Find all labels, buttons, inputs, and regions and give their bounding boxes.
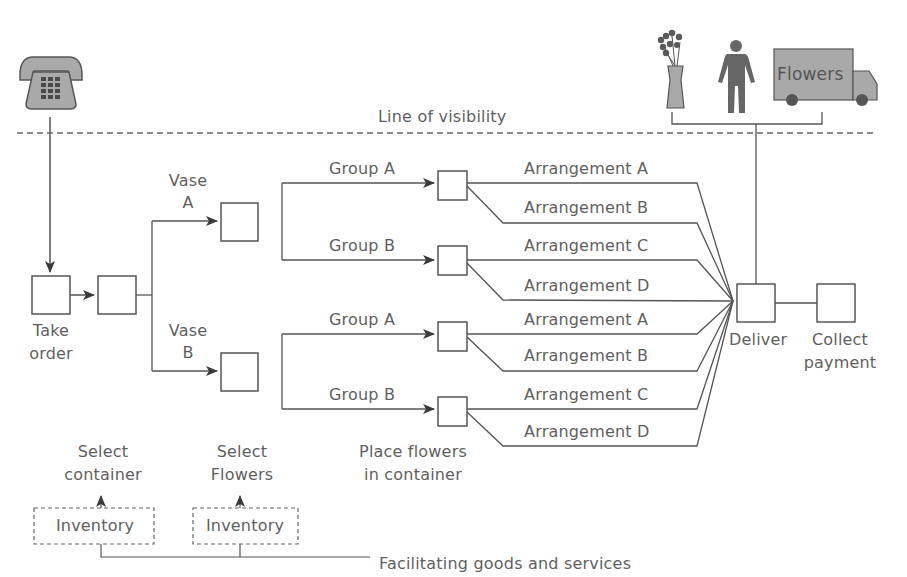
vase-b-label-1: Vase xyxy=(169,320,208,342)
lower-group-b-label: Group B xyxy=(329,384,395,406)
arrangement-label: Arrangement D xyxy=(524,275,650,297)
select-container-label-2: container xyxy=(64,464,142,486)
group-a-box xyxy=(438,171,467,200)
vase-a-label-2: A xyxy=(182,192,193,214)
service-blueprint-diagram xyxy=(0,0,907,577)
take-order-label-1: Take xyxy=(33,320,69,342)
arrangement-label: Arrangement C xyxy=(524,235,648,257)
delivery-person-icon xyxy=(718,40,755,113)
select-flowers-label-1: Select xyxy=(217,441,268,463)
take-order-box xyxy=(32,276,70,314)
vase-b-label-2: B xyxy=(182,342,193,364)
vase-b-box xyxy=(221,353,258,391)
select-flowers-label-2: Flowers xyxy=(211,464,274,486)
deliver-box xyxy=(737,284,775,322)
line-of-visibility-label: Line of visibility xyxy=(378,106,506,128)
upper-group-a-label: Group A xyxy=(329,158,395,180)
arrangement-label: Arrangement D xyxy=(524,421,650,443)
collect-payment-box xyxy=(817,284,855,322)
group-a-box xyxy=(438,322,467,351)
take-order-label-2: order xyxy=(29,343,73,365)
group-b-box xyxy=(438,397,467,426)
vase-a-label-1: Vase xyxy=(169,170,208,192)
group-b-box xyxy=(438,246,467,275)
place-flowers-label-1: Place flowers xyxy=(359,441,467,463)
frontstage-bracket xyxy=(672,112,822,124)
collect-payment-label-1: Collect xyxy=(812,329,868,351)
arrangement-label: Arrangement A xyxy=(524,158,648,180)
telephone-icon xyxy=(20,57,82,109)
truck-label: Flowers xyxy=(777,63,844,85)
collect-payment-label-2: payment xyxy=(804,352,877,374)
inventory-label: Inventory xyxy=(206,515,284,537)
vase-a-box xyxy=(221,203,258,241)
upper-group-b-label: Group B xyxy=(329,235,395,257)
arrangement-label: Arrangement A xyxy=(524,309,648,331)
arrangement-label: Arrangement C xyxy=(524,384,648,406)
arrangement-label: Arrangement B xyxy=(524,345,648,367)
arrangement-label: Arrangement B xyxy=(524,197,648,219)
vase-with-flowers-icon xyxy=(658,30,684,108)
deliver-label: Deliver xyxy=(729,329,787,351)
process-box xyxy=(98,276,136,314)
select-container-label-1: Select xyxy=(78,441,129,463)
lower-group-a-label: Group A xyxy=(329,309,395,331)
inventory-label: Inventory xyxy=(56,515,134,537)
facilitating-goods-label: Facilitating goods and services xyxy=(379,553,631,575)
place-flowers-label-2: in container xyxy=(364,464,462,486)
